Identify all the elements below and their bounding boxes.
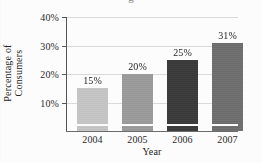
x-tick-label-2006: 2006 [172,134,192,145]
y-tick-40 [62,17,66,18]
y-axis-title-line2: Consumers [13,44,24,101]
bar-2006[interactable]: 25% [167,60,198,131]
x-tick-label-2007: 2007 [217,134,237,145]
x-axis-title: Year [66,146,238,157]
bar-value-2006: 25% [173,47,192,58]
chart-title-text: g [0,0,262,3]
bar-texture [167,60,198,131]
x-axis-line [66,131,238,132]
gridline-baseline-overlay [67,124,238,126]
plot-area: 40% 30% 20% 10% 15% 20% 25% 31% 2 [66,17,238,132]
x-tick-label-2005: 2005 [127,134,147,145]
bar-2005[interactable]: 20% [122,74,153,131]
y-axis-title-line1: Percentage of [2,44,13,101]
bar-2007[interactable]: 31% [212,43,243,131]
gridline-40 [67,17,238,18]
y-tick-30 [62,46,66,47]
bar-value-2005: 20% [128,61,147,72]
bar-texture [122,74,153,131]
bar-value-2007: 31% [218,30,237,41]
y-tick-label-30: 30% [40,40,59,51]
y-tick-label-20: 20% [40,69,59,80]
bar-value-2004: 15% [83,75,102,86]
bar-texture [212,43,243,131]
y-axis-title: Percentage of Consumers [2,19,24,127]
y-tick-10 [62,103,66,104]
y-tick-label-10: 10% [40,97,59,108]
chart-title-cutoff: g [0,0,262,7]
bar-chart-figure: g Percentage of Consumers 40% 30% 20% 10… [0,0,262,163]
y-tick-20 [62,74,66,75]
x-tick-label-2004: 2004 [82,134,102,145]
y-tick-label-40: 40% [40,12,59,23]
